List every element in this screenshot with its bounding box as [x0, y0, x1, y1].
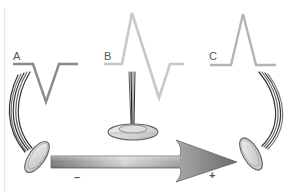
ecg-diagram	[0, 0, 300, 192]
negative-sign: –	[74, 172, 80, 183]
waveform-c	[210, 14, 276, 65]
electrode-c	[235, 134, 267, 173]
positive-sign: +	[209, 170, 215, 181]
waveform-label-b: B	[104, 51, 111, 62]
electrode-c-wires	[259, 72, 283, 149]
waveform-label-c: C	[209, 51, 217, 62]
electrode-b	[108, 124, 158, 140]
electrode-b-wires	[129, 72, 135, 125]
waveform-b	[104, 13, 184, 98]
waveform-a	[13, 64, 78, 102]
waveform-label-a: A	[13, 51, 20, 62]
electrode-a-wires	[9, 72, 32, 152]
